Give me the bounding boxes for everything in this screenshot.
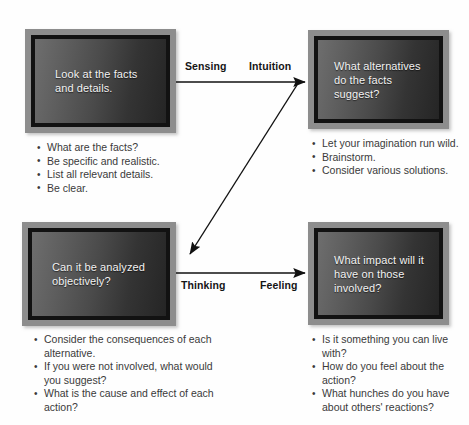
bullet-list-top-left: What are the facts? Be specific and real…	[37, 141, 217, 195]
concept-box-top-left-text: Look at the facts and details.	[35, 67, 166, 95]
concept-box-top-right-text: What alternatives do the facts suggest?	[318, 59, 439, 101]
list-item-text: Be specific and realistic.	[47, 155, 160, 167]
list-item-text: Brainstorm.	[322, 151, 376, 163]
list-item: What hunches do you have about others' r…	[312, 387, 464, 414]
list-item: Is it something you can live with?	[312, 333, 464, 360]
list-item: List all relevant details.	[37, 168, 217, 182]
list-item-text: Be clear.	[47, 182, 88, 194]
list-item-text: What are the facts?	[47, 141, 138, 153]
arrow-label-intuition: Intuition	[249, 60, 291, 72]
list-item-text: Let your imagination run wild.	[322, 137, 459, 149]
concept-box-top-right: What alternatives do the facts suggest?	[308, 30, 449, 129]
concept-box-bottom-right: What impact will it have on those involv…	[308, 222, 449, 325]
bullet-list-bottom-left: Consider the consequences of each altern…	[34, 333, 219, 415]
list-item-text: Is it something you can live with?	[322, 333, 448, 359]
concept-box-top-left: Look at the facts and details.	[25, 29, 176, 133]
concept-box-inner-frame: Look at the facts and details.	[31, 35, 170, 127]
diagram-canvas: Look at the facts and details. What alte…	[0, 0, 469, 425]
list-item-text: Consider the consequences of each altern…	[44, 333, 212, 359]
list-item: Be clear.	[37, 182, 217, 196]
concept-box-bottom-left: Can it be analyzed objectively?	[22, 222, 176, 326]
bullet-list-bottom-right: Is it something you can live with? How d…	[312, 333, 464, 415]
concept-box-bottom-right-text: What impact will it have on those involv…	[318, 253, 439, 295]
list-item: Consider various solutions.	[312, 164, 462, 178]
list-item: What is the cause and effect of each act…	[34, 387, 219, 414]
list-item-text: Consider various solutions.	[322, 164, 448, 176]
arrow-label-thinking: Thinking	[181, 279, 226, 291]
arrow-label-feeling: Feeling	[260, 279, 297, 291]
list-item: Let your imagination run wild.	[312, 137, 462, 151]
concept-box-inner-frame: Can it be analyzed objectively?	[28, 228, 170, 320]
list-item-text: How do you feel about the action?	[322, 360, 444, 386]
list-item: Brainstorm.	[312, 151, 462, 165]
list-item-text: What is the cause and effect of each act…	[44, 387, 214, 413]
list-item-text: If you were not involved, what would you…	[44, 360, 213, 386]
list-item: Consider the consequences of each altern…	[34, 333, 219, 360]
concept-box-bottom-left-text: Can it be analyzed objectively?	[32, 260, 166, 288]
list-item: How do you feel about the action?	[312, 360, 464, 387]
bullet-list-top-right: Let your imagination run wild. Brainstor…	[312, 137, 462, 178]
list-item-text: List all relevant details.	[47, 168, 153, 180]
concept-box-inner-frame: What alternatives do the facts suggest?	[314, 36, 443, 123]
list-item: If you were not involved, what would you…	[34, 360, 219, 387]
arrow-label-sensing: Sensing	[185, 60, 227, 72]
list-item-text: What hunches do you have about others' r…	[322, 387, 449, 413]
list-item: What are the facts?	[37, 141, 217, 155]
concept-box-inner-frame: What impact will it have on those involv…	[314, 228, 443, 319]
list-item: Be specific and realistic.	[37, 155, 217, 169]
